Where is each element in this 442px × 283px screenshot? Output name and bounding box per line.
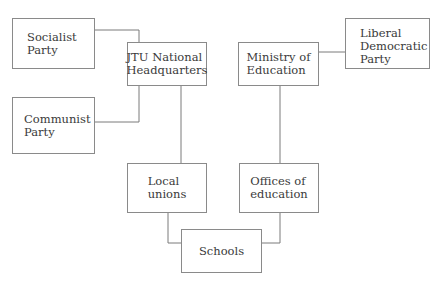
node-label: Local unions (148, 175, 187, 201)
edge-local-unions-to-schools (168, 213, 181, 243)
node-label: JTU National Headquarters (127, 51, 208, 77)
node-label: Communist Party (24, 113, 91, 139)
node-schools: Schools (181, 229, 262, 273)
node-ministry-of-education: Ministry of Education (238, 42, 319, 86)
node-label: Ministry of Education (247, 51, 311, 77)
node-offices-of-education: Offices of education (239, 163, 319, 213)
node-socialist-party: Socialist Party (12, 18, 95, 69)
node-label: Liberal Democratic Party (360, 27, 427, 66)
node-local-unions: Local unions (127, 163, 207, 213)
node-label: Socialist Party (27, 31, 77, 57)
node-liberal-democratic-party: Liberal Democratic Party (345, 18, 430, 69)
node-label: Offices of education (250, 175, 308, 201)
edge-offices-to-schools (262, 213, 280, 243)
node-label: Schools (199, 245, 244, 258)
edge-communist-to-jtu (95, 86, 139, 122)
node-jtu-national-headquarters: JTU National Headquarters (127, 42, 207, 86)
node-communist-party: Communist Party (12, 97, 95, 154)
edge-socialist-to-jtu (95, 30, 139, 42)
